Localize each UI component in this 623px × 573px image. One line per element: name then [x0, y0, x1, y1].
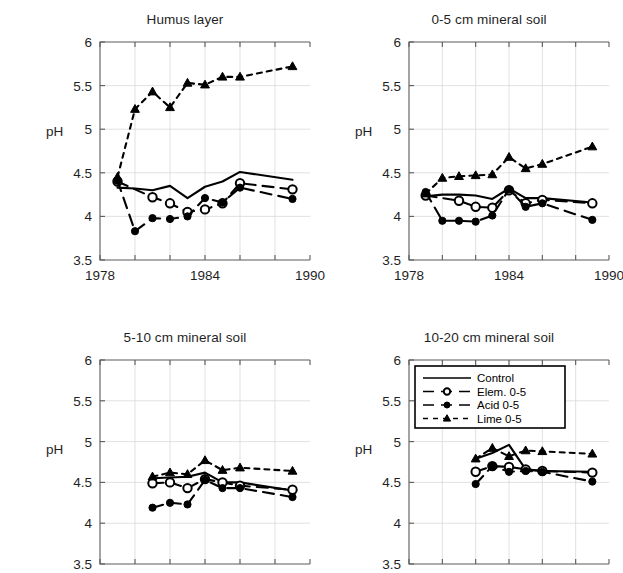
data-point — [166, 215, 173, 222]
data-point — [288, 486, 296, 494]
plot-area: 3.544.555.56 — [46, 350, 324, 572]
panel-0-5-cm-mineral-soil: 0-5 cm mineral soil pH 3.544.555.5619781… — [355, 12, 623, 290]
data-point — [488, 444, 497, 452]
panel-5-10-cm-mineral-soil: 5-10 cm mineral soil pH 3.544.555.56 — [46, 330, 324, 573]
data-point — [219, 485, 226, 492]
data-point — [201, 194, 208, 201]
y-tick-label: 5.5 — [382, 394, 401, 409]
data-point — [201, 205, 209, 213]
y-tick-label: 4 — [393, 516, 401, 531]
data-point — [588, 142, 597, 150]
x-tick-label: 1978 — [85, 268, 115, 283]
data-point — [521, 446, 530, 454]
data-point — [184, 213, 191, 220]
data-point — [236, 485, 243, 492]
y-tick-labels: 3.544.555.56 — [73, 353, 92, 572]
data-point — [471, 203, 479, 211]
data-point — [201, 476, 208, 483]
series-layer — [471, 444, 596, 488]
data-point — [289, 195, 296, 202]
data-point — [505, 468, 512, 475]
data-point — [236, 463, 245, 471]
panel-title: Humus layer — [46, 12, 324, 27]
legend-marker — [444, 388, 450, 394]
data-point — [539, 200, 546, 207]
data-point — [471, 468, 479, 476]
data-point — [522, 467, 529, 474]
y-tick-label: 6 — [393, 35, 401, 50]
data-point — [489, 462, 496, 469]
data-point — [505, 186, 512, 193]
data-point — [589, 216, 596, 223]
data-point — [236, 184, 243, 191]
plot-area: 3.544.555.56ControlElem. 0-5Acid 0-5Lime… — [355, 350, 623, 572]
y-tick-label: 4 — [393, 209, 401, 224]
y-tick-label: 4 — [84, 516, 92, 531]
series-acid-0-5 — [472, 462, 596, 487]
data-point — [149, 215, 156, 222]
y-tick-label: 3.5 — [382, 557, 401, 572]
data-point — [289, 493, 296, 500]
gridlines — [100, 42, 310, 260]
y-tick-label: 4.5 — [73, 166, 92, 181]
x-tick-labels: 197819841990 — [394, 268, 623, 283]
data-point — [489, 212, 496, 219]
data-point — [148, 87, 157, 95]
data-point — [131, 228, 138, 235]
data-point — [538, 159, 547, 167]
plot-area: 3.544.555.56197819841990 — [355, 32, 623, 290]
legend-label: Lime 0-5 — [477, 413, 522, 425]
panel-title: 10-20 cm mineral soil — [355, 330, 623, 345]
y-tick-label: 5 — [393, 122, 401, 137]
data-point — [288, 185, 296, 193]
data-point — [166, 499, 173, 506]
legend-label: Elem. 0-5 — [477, 386, 526, 398]
legend-marker — [444, 402, 450, 408]
plot-area: 3.544.555.56197819841990 — [46, 32, 324, 290]
data-point — [539, 468, 546, 475]
y-tick-label: 4.5 — [73, 475, 92, 490]
series-layer — [148, 456, 297, 512]
x-tick-labels: 197819841990 — [85, 268, 325, 283]
x-tick-label: 1984 — [494, 268, 525, 283]
data-point — [218, 72, 227, 80]
y-tick-label: 5 — [84, 122, 92, 137]
x-tick-label: 1990 — [295, 268, 325, 283]
y-tick-labels: 3.544.555.56 — [73, 35, 92, 268]
data-point — [588, 468, 596, 476]
data-point — [219, 199, 226, 206]
y-tick-label: 5 — [84, 435, 92, 450]
data-point — [113, 173, 122, 181]
x-tick-label: 1990 — [594, 268, 623, 283]
y-tick-label: 6 — [393, 353, 401, 368]
y-tick-label: 3.5 — [382, 253, 401, 268]
figure-root: Humus layer pH 3.544.555.56197819841990 … — [0, 0, 623, 573]
data-point — [472, 480, 479, 487]
data-point — [472, 218, 479, 225]
y-tick-label: 5 — [393, 435, 401, 450]
panel-10-20-cm-mineral-soil: 10-20 cm mineral soil pH 3.544.555.56Con… — [355, 330, 623, 573]
panel-title: 5-10 cm mineral soil — [46, 330, 324, 345]
data-point — [288, 62, 297, 70]
data-point — [166, 199, 174, 207]
data-point — [149, 504, 156, 511]
data-point — [201, 456, 210, 464]
y-tick-labels: 3.544.555.56 — [382, 35, 401, 268]
legend: ControlElem. 0-5Acid 0-5Lime 0-5 — [415, 366, 565, 428]
legend-label: Control — [477, 372, 514, 384]
data-point — [439, 217, 446, 224]
panel-humus-layer: Humus layer pH 3.544.555.56197819841990 — [46, 12, 324, 290]
data-point — [505, 153, 514, 161]
data-point — [166, 478, 174, 486]
x-tick-label: 1978 — [394, 268, 424, 283]
y-tick-label: 4 — [84, 209, 92, 224]
y-tick-label: 3.5 — [73, 253, 92, 268]
y-tick-label: 3.5 — [73, 557, 92, 572]
data-point — [522, 203, 529, 210]
y-tick-label: 5.5 — [73, 79, 92, 94]
y-tick-label: 4.5 — [382, 166, 401, 181]
series-lime-0-5 — [148, 456, 297, 480]
y-tick-label: 6 — [84, 35, 92, 50]
data-point — [455, 197, 463, 205]
data-point — [455, 217, 462, 224]
